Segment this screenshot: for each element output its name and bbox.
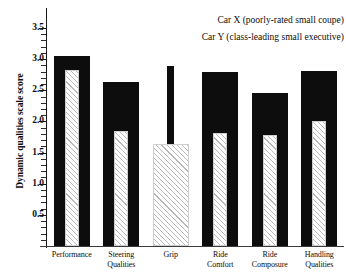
y-tick-minor: [41, 190, 46, 191]
bar-car-y: [114, 131, 128, 246]
bar-group: [97, 8, 147, 246]
y-tick-minor: [41, 34, 46, 35]
x-axis-label-line: Ride: [196, 250, 246, 260]
y-tick-label: 2.0: [8, 116, 44, 126]
y-tick-minor: [41, 165, 46, 166]
x-axis-label-line: Comfort: [196, 260, 246, 270]
y-tick-minor: [41, 134, 46, 135]
y-tick-label: 3.0: [8, 54, 44, 64]
x-axis-label-line: Performance: [47, 250, 97, 260]
y-tick-minor: [41, 53, 46, 54]
y-tick-minor: [41, 234, 46, 235]
x-axis-label-line: Qualities: [295, 260, 345, 270]
y-tick-minor: [41, 209, 46, 210]
y-tick-minor: [41, 171, 46, 172]
bar-car-y: [263, 135, 277, 246]
y-tick-minor: [41, 202, 46, 203]
y-tick-minor: [41, 146, 46, 147]
y-tick-minor: [41, 115, 46, 116]
bar-car-y: [312, 121, 326, 246]
x-axis-label: RideComposure: [245, 250, 295, 269]
bar-car-y: [153, 144, 189, 246]
y-tick-minor: [41, 240, 46, 241]
bar-group: [47, 8, 97, 246]
y-tick-minor: [41, 227, 46, 228]
y-tick-minor: [41, 159, 46, 160]
y-tick-label: 1.5: [8, 148, 44, 158]
x-axis-label-line: Steering: [97, 250, 147, 260]
legend-entry-car-x: Car X (poorly-rated small coupe): [160, 12, 346, 29]
y-tick-minor: [41, 140, 46, 141]
y-tick-minor: [41, 78, 46, 79]
bar-car-y: [213, 133, 227, 246]
x-axis-label: Performance: [47, 250, 97, 260]
y-tick-minor: [41, 103, 46, 104]
y-tick-minor: [41, 65, 46, 66]
y-tick-minor: [41, 47, 46, 48]
y-tick-minor: [41, 97, 46, 98]
legend-entry-car-y: Car Y (class-leading small executive): [160, 29, 346, 46]
y-tick-minor: [41, 40, 46, 41]
x-axis-label-line: Composure: [245, 260, 295, 270]
x-axis-label: HandlingQualities: [295, 250, 345, 269]
y-tick-minor: [41, 128, 46, 129]
x-axis-label-line: Grip: [146, 250, 196, 260]
y-axis-title: Dynamic qualities scale score: [15, 41, 25, 221]
y-tick-label: 2.5: [8, 85, 44, 95]
y-tick-label: 1.0: [8, 179, 44, 189]
y-tick-label: 0.5: [8, 210, 44, 220]
x-axis-label: RideComfort: [196, 250, 246, 269]
x-axis-label-line: Qualities: [97, 260, 147, 270]
bar-chart: Dynamic qualities scale score 0.51.01.52…: [0, 0, 346, 276]
x-axis-label: SteeringQualities: [97, 250, 147, 269]
y-tick-label: 3.5: [8, 23, 44, 33]
y-tick-minor: [41, 72, 46, 73]
y-tick-minor: [41, 221, 46, 222]
bar-car-y: [65, 70, 79, 246]
x-axis-label-line: Ride: [245, 250, 295, 260]
y-tick-minor: [41, 109, 46, 110]
y-tick-minor: [41, 177, 46, 178]
legend: Car X (poorly-rated small coupe) Car Y (…: [160, 12, 346, 46]
x-axis-label: Grip: [146, 250, 196, 260]
x-axis-line: [40, 246, 344, 247]
x-axis-label-line: Handling: [295, 250, 345, 260]
y-tick-minor: [41, 84, 46, 85]
y-tick-minor: [41, 196, 46, 197]
